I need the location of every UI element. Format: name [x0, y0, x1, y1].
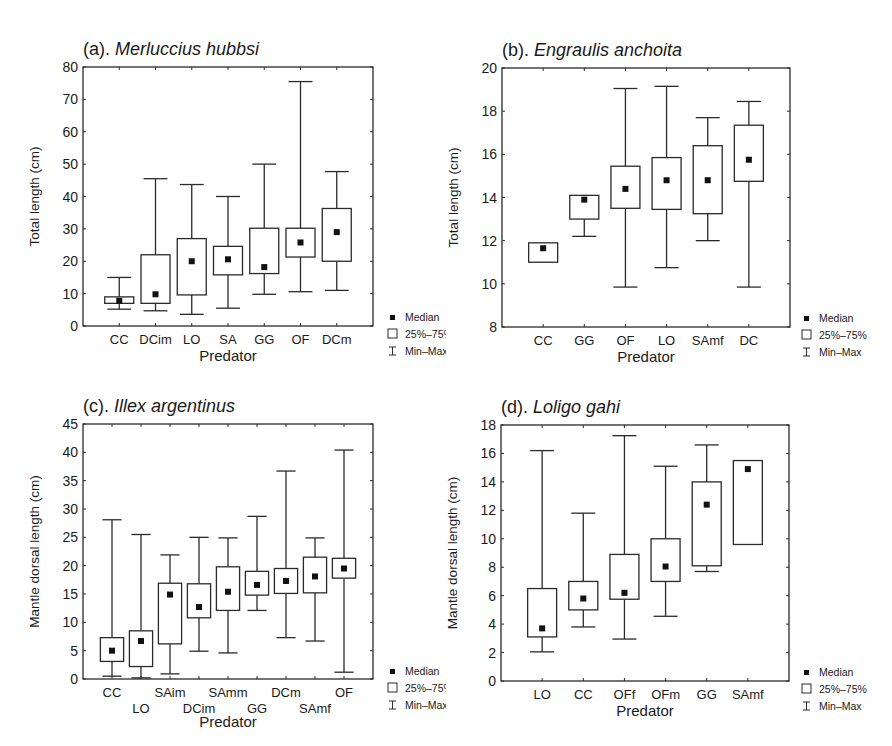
- iqr-box: [692, 482, 721, 566]
- x-category-label: DCim: [139, 332, 172, 347]
- y-tick-label: 0: [70, 318, 78, 334]
- median-marker: [745, 466, 751, 472]
- legend-box-icon: [388, 329, 397, 338]
- y-tick-label: 45: [62, 416, 78, 432]
- y-tick-label: 40: [62, 189, 78, 205]
- box-dcim: [187, 537, 210, 651]
- chart-title-species: Loligo gahi: [533, 397, 621, 417]
- chart-title-species: Engraulis anchoita: [534, 40, 682, 60]
- median-marker: [704, 502, 710, 508]
- box-ofm: [651, 466, 680, 616]
- x-category-label: CC: [574, 687, 593, 702]
- x-category-label: DC: [739, 333, 758, 348]
- iqr-box: [734, 125, 763, 181]
- y-axis-label: Mantle dorsal length (cm): [446, 477, 460, 629]
- median-marker: [664, 177, 670, 183]
- y-tick-label: 20: [62, 253, 78, 269]
- chart-title: (d). Loligo gahi: [501, 397, 621, 417]
- median-marker: [312, 573, 318, 579]
- box-samf: [693, 118, 722, 241]
- legend-median-icon: [804, 670, 809, 675]
- iqr-box: [651, 539, 680, 582]
- median-marker: [298, 239, 304, 245]
- legend-box-label: 25%–75%: [819, 683, 867, 695]
- chart-title: (c). Illex argentinus: [83, 396, 235, 416]
- x-category-label: OF: [291, 332, 309, 347]
- median-marker: [580, 596, 586, 602]
- box-cc: [569, 513, 598, 627]
- y-tick-label: 10: [481, 276, 497, 292]
- median-marker: [539, 625, 545, 631]
- median-marker: [167, 592, 173, 598]
- legend-box-icon: [802, 330, 811, 339]
- y-axis-label: Mantle dorsal length (cm): [27, 475, 42, 627]
- x-category-label: DCm: [322, 332, 352, 347]
- median-marker: [153, 291, 159, 297]
- chart-title: (b). Engraulis anchoita: [502, 40, 682, 60]
- x-category-label: OF: [616, 333, 634, 348]
- y-tick-label: 12: [480, 502, 496, 518]
- legend-median-label: Median: [819, 666, 854, 678]
- legend-median-icon: [390, 315, 395, 320]
- legend-box-label: 25%–75%: [405, 328, 446, 340]
- y-tick-label: 40: [62, 444, 78, 460]
- chart-title-prefix: (d).: [501, 397, 533, 417]
- iqr-box: [652, 158, 681, 210]
- x-category-label: OFf: [614, 687, 636, 702]
- x-category-label: SAim: [154, 685, 185, 700]
- y-tick-label: 12: [481, 233, 497, 249]
- chart-title-prefix: (b).: [502, 40, 534, 60]
- chart-title-species: Merluccius hubbsi: [115, 39, 260, 59]
- median-marker: [334, 229, 340, 235]
- x-category-label: GG: [254, 332, 274, 347]
- x-category-label: OFm: [651, 687, 680, 702]
- x-category-label: LO: [533, 687, 550, 702]
- iqr-box: [177, 239, 206, 295]
- box-of: [286, 82, 315, 292]
- y-axis-label: Total length (cm): [27, 147, 42, 247]
- iqr-box: [733, 461, 762, 545]
- median-marker: [705, 177, 711, 183]
- median-marker: [116, 298, 122, 304]
- legend: Median25%–75%Min–Max: [802, 666, 867, 712]
- box-lo: [528, 451, 557, 652]
- median-marker: [225, 256, 231, 262]
- x-category-label: GG: [697, 687, 717, 702]
- x-category-label: DCm: [271, 685, 301, 700]
- box-gg: [250, 164, 279, 294]
- legend: Median25%–75%Min–Max: [388, 665, 446, 711]
- box-lo: [129, 535, 152, 678]
- x-category-label: SAmf: [692, 333, 724, 348]
- x-category-label: GG: [574, 333, 594, 348]
- legend-median-label: Median: [819, 312, 854, 324]
- median-marker: [225, 589, 231, 595]
- y-tick-label: 80: [62, 59, 78, 75]
- legend-median-label: Median: [405, 665, 440, 677]
- box-dcm: [322, 172, 351, 291]
- chart-panel-d: (d). Loligo gahi024681012141618Mantle do…: [446, 373, 892, 746]
- y-tick-label: 4: [488, 616, 496, 632]
- iqr-box: [129, 631, 152, 667]
- y-tick-label: 0: [70, 671, 78, 687]
- box-sa: [214, 197, 243, 309]
- y-tick-label: 18: [481, 103, 497, 119]
- box-gg: [570, 195, 599, 236]
- median-marker: [581, 197, 587, 203]
- median-marker: [283, 578, 289, 584]
- y-tick-label: 6: [488, 588, 496, 604]
- y-tick-label: 16: [480, 445, 496, 461]
- chart-panel-b: (b). Engraulis anchoita8101214161820Tota…: [446, 0, 892, 373]
- legend-median-icon: [390, 669, 395, 674]
- box-samm: [216, 538, 239, 653]
- median-marker: [341, 566, 347, 572]
- y-tick-label: 35: [62, 473, 78, 489]
- legend-whisker-label: Min–Max: [819, 700, 862, 712]
- box-lo: [177, 185, 206, 315]
- box-cc: [105, 277, 134, 309]
- chart-title-species: Illex argentinus: [114, 396, 235, 416]
- legend-whisker-label: Min–Max: [405, 345, 446, 357]
- y-tick-label: 15: [62, 586, 78, 602]
- box-off: [610, 436, 639, 639]
- y-tick-label: 2: [488, 645, 496, 661]
- x-category-label: LO: [132, 701, 149, 716]
